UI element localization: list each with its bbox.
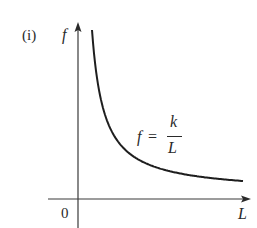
y-axis-label: f bbox=[62, 26, 69, 44]
inverse-curve bbox=[92, 30, 243, 181]
equation-denominator: L bbox=[167, 139, 177, 156]
chart-canvas: (i) f 0 L f = k L bbox=[0, 0, 257, 228]
equation-numerator: k bbox=[170, 113, 178, 130]
equation-equals: = bbox=[148, 128, 157, 145]
panel-label: (i) bbox=[22, 27, 36, 44]
origin-label: 0 bbox=[61, 205, 69, 221]
equation-lhs: f bbox=[137, 128, 144, 146]
equation-annotation: f = k L bbox=[137, 113, 182, 156]
x-axis-label: L bbox=[237, 205, 247, 222]
